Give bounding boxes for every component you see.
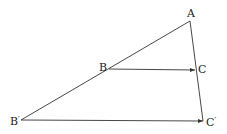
label-c-prime: C′ <box>206 115 216 129</box>
label-b-prime: B′ <box>10 114 20 128</box>
label-b: B <box>99 61 107 74</box>
label-a: A <box>186 7 196 20</box>
similar-triangles-diagram: A B C B′ C′ <box>0 0 227 134</box>
arrow-b-to-c <box>109 69 195 70</box>
label-c: C <box>198 63 206 76</box>
arrow-b-prime-to-c-prime <box>21 120 203 121</box>
